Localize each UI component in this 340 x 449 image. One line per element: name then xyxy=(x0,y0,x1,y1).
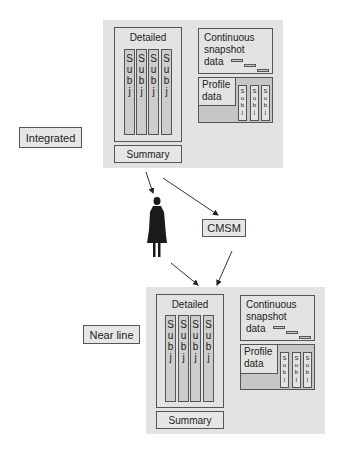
bottom-profile-subj-1: Subj xyxy=(280,352,289,388)
bottom-profile-label: Profiledata xyxy=(240,344,278,374)
bottom-profile-subj-3: Subj xyxy=(303,352,312,388)
bottom-snapshot-bar-1 xyxy=(273,326,285,329)
bottom-summary-box: Summary xyxy=(156,411,224,429)
person-icon xyxy=(147,197,167,257)
bottom-detailed-title: Detailed xyxy=(157,299,223,310)
bottom-subj-column-1: Subj xyxy=(165,315,176,402)
bottom-subj-column-3: Subj xyxy=(190,315,201,402)
bottom-profile-subj-2: Subj xyxy=(292,352,301,388)
bottom-subj-column-2: Subj xyxy=(178,315,189,402)
bottom-snapshot-bar-3 xyxy=(299,336,311,339)
near-line-label: Near line xyxy=(83,325,140,344)
bottom-subj-column-4: Subj xyxy=(203,315,214,402)
bottom-snapshot-bar-2 xyxy=(286,331,298,334)
bottom-summary-text: Summary xyxy=(169,415,212,426)
bottom-continuous-snapshot-box: Continuous snapshot data xyxy=(240,295,315,341)
near-line-text: Near line xyxy=(89,329,133,341)
